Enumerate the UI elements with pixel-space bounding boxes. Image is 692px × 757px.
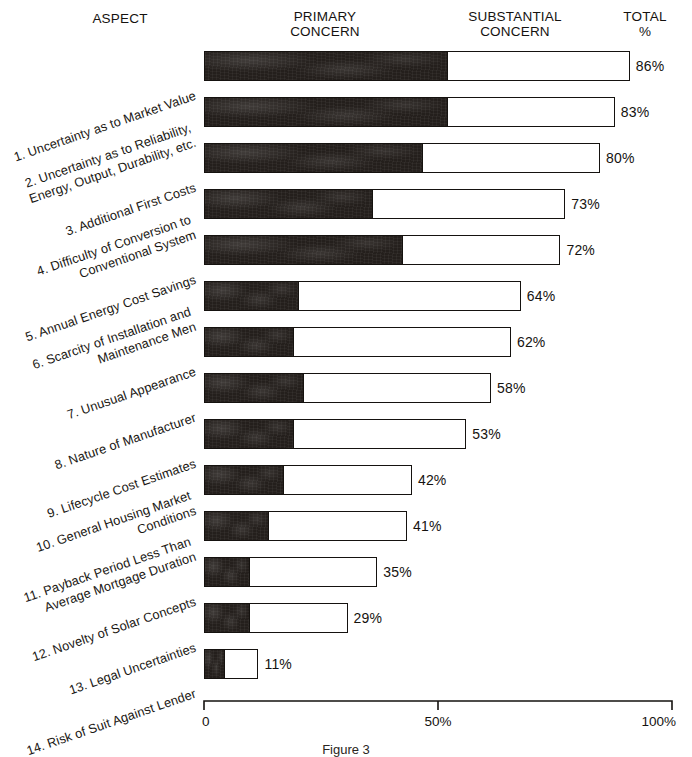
column-header-primary-concern: PRIMARY CONCERN	[265, 10, 385, 39]
bar-row	[204, 51, 630, 81]
bar-total-value: 62%	[517, 327, 546, 357]
figure-caption: Figure 3	[0, 742, 692, 757]
bar-row	[204, 189, 565, 219]
bar-total-value: 29%	[354, 603, 383, 633]
bar-row	[204, 235, 560, 265]
bar-total-value: 83%	[621, 97, 650, 127]
bar-segment-primary-concern	[205, 328, 294, 356]
bar-segment-primary-concern	[205, 98, 448, 126]
bar-row	[204, 557, 377, 587]
bar-row	[204, 419, 466, 449]
bar-segment-primary-concern	[205, 512, 269, 540]
bar-segment-primary-concern	[205, 420, 294, 448]
bar-row	[204, 511, 407, 541]
column-header-substantial-concern: SUBSTANTIAL CONCERN	[440, 10, 590, 39]
bar-segment-primary-concern	[205, 466, 284, 494]
bar-segment-primary-concern	[205, 282, 299, 310]
bar-total-value: 80%	[606, 143, 635, 173]
bar-total-value: 53%	[472, 419, 501, 449]
bar-total-value: 41%	[413, 511, 442, 541]
bar-total-value: 35%	[383, 557, 412, 587]
axis-tick-label: 100%	[632, 714, 676, 729]
bar-segment-primary-concern	[205, 604, 250, 632]
bar-row	[204, 465, 412, 495]
bar-total-value: 42%	[418, 465, 447, 495]
column-header-total-percent: TOTAL %	[610, 10, 680, 39]
column-header-aspect: ASPECT	[55, 12, 185, 27]
axis-tick-label: 50%	[416, 714, 460, 729]
bar-row	[204, 373, 491, 403]
bar-segment-primary-concern	[205, 650, 225, 678]
bar-row	[204, 281, 521, 311]
bar-segment-primary-concern	[205, 52, 448, 80]
bar-segment-primary-concern	[205, 374, 304, 402]
bar-total-value: 11%	[264, 649, 292, 679]
bar-row	[204, 327, 511, 357]
bar-total-value: 72%	[566, 235, 595, 265]
bar-row	[204, 649, 258, 679]
bar-total-value: 86%	[636, 51, 665, 81]
axis-tick-label: 0	[202, 714, 210, 729]
bar-total-value: 73%	[571, 189, 600, 219]
bar-row	[204, 603, 348, 633]
bar-total-value: 64%	[527, 281, 556, 311]
figure-container: ASPECT PRIMARY CONCERN SUBSTANTIAL CONCE…	[0, 0, 692, 757]
bar-row	[204, 143, 600, 173]
bar-segment-primary-concern	[205, 190, 373, 218]
bar-segment-primary-concern	[205, 144, 423, 172]
bar-segment-primary-concern	[205, 236, 403, 264]
bar-row	[204, 97, 615, 127]
bar-total-value: 58%	[497, 373, 526, 403]
bar-segment-primary-concern	[205, 558, 250, 586]
